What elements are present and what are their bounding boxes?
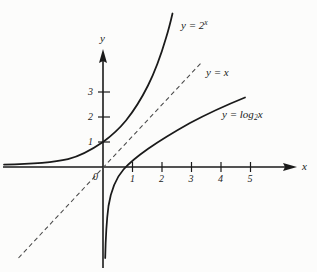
logarithm-label-text: y = log (222, 108, 254, 120)
graph-figure: y x 0 1 2 3 4 5 1 2 3 y = 2x y = x y = l… (0, 0, 317, 272)
y-axis-ticks (98, 92, 110, 142)
exponential-curve-label: y = 2x (181, 19, 208, 31)
identity-label-text: y = x (206, 66, 229, 78)
exponential-label-text: y = 2 (181, 19, 204, 31)
x-axis-label: x (302, 161, 307, 172)
x-tick-label-4: 4 (218, 174, 223, 184)
y-axis-label: y (100, 33, 105, 44)
x-tick-label-5: 5 (248, 174, 253, 184)
x-tick-label-3: 3 (189, 174, 194, 184)
graph-canvas (0, 0, 317, 272)
exponential-label-exponent: x (204, 18, 207, 27)
origin-label: 0 (93, 172, 98, 182)
y-tick-label-1: 1 (88, 137, 93, 147)
x-tick-label-1: 1 (130, 174, 135, 184)
logarithm-label-arg: x (258, 108, 263, 120)
identity-line-label: y = x (206, 67, 229, 78)
x-tick-label-2: 2 (159, 174, 164, 184)
y-tick-label-2: 2 (88, 112, 93, 122)
logarithm-curve-label: y = log2x (222, 109, 263, 122)
y-tick-label-3: 3 (88, 87, 93, 97)
x-axis (3, 163, 297, 171)
